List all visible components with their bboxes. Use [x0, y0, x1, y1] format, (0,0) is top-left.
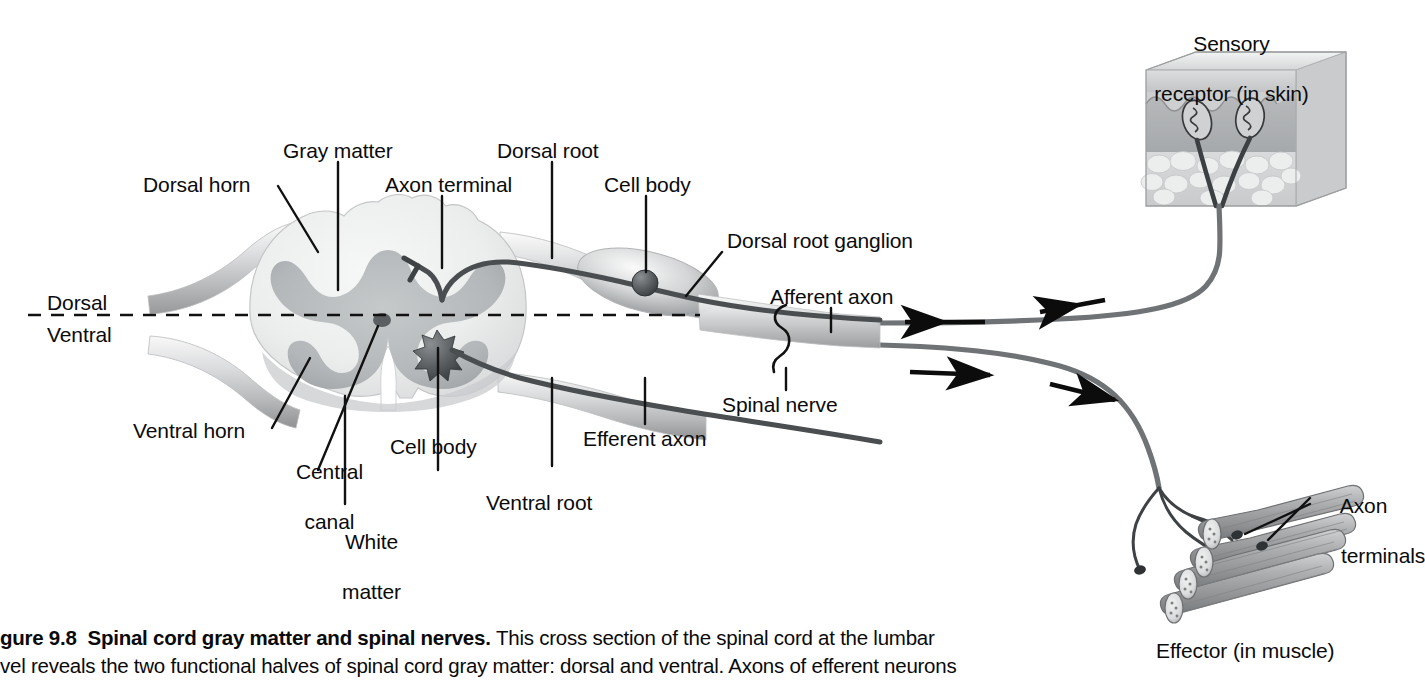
- label-ventral-horn: Ventral horn: [133, 418, 245, 443]
- label-cell-body-ventral: Cell body: [390, 434, 477, 459]
- label-ventral: Ventral: [47, 322, 112, 347]
- spinal-cord-cross-section: [250, 195, 526, 412]
- label-spinal-nerve: Spinal nerve: [722, 392, 838, 417]
- label-cell-body-dorsal: Cell body: [604, 172, 691, 197]
- afferent-axon-path: [880, 206, 1220, 323]
- label-afferent-axon: Afferent axon: [770, 284, 893, 309]
- figure-caption: gure 9.8 Spinal cord gray matter and spi…: [0, 624, 1060, 680]
- figure-title: Spinal cord gray matter and spinal nerve…: [88, 626, 491, 649]
- figure-number: gure 9.8: [0, 626, 77, 649]
- label-gray-matter: Gray matter: [283, 138, 393, 163]
- label-white-matter: White matter: [300, 504, 420, 629]
- label-axon-terminals: Axon terminals: [1318, 468, 1425, 593]
- caption-second-line: vel reveals the two functional halves of…: [0, 652, 1060, 680]
- label-axon-terminal: Axon terminal: [385, 172, 512, 197]
- label-dorsal-horn: Dorsal horn: [143, 172, 250, 197]
- label-dorsal-root-ganglion: Dorsal root ganglion: [727, 228, 913, 253]
- sensory-neuron-cell-body-shape: [632, 270, 658, 296]
- label-ventral-root: Ventral root: [486, 490, 592, 515]
- label-sensory-receptor: Sensory receptor (in skin): [1105, 6, 1335, 131]
- label-dorsal-root: Dorsal root: [497, 138, 599, 163]
- caption-first-line: gure 9.8 Spinal cord gray matter and spi…: [0, 624, 1060, 652]
- label-effector-muscle: Effector (in muscle): [1156, 638, 1335, 663]
- caption-text-line1: This cross section of the spinal cord at…: [496, 626, 934, 649]
- efferent-arrow-inner: [910, 372, 990, 375]
- label-dorsal: Dorsal: [47, 290, 107, 315]
- efferent-axon-path: [880, 345, 1159, 488]
- label-efferent-axon: Efferent axon: [583, 426, 706, 451]
- afferent-arrow-outer: [1040, 300, 1105, 312]
